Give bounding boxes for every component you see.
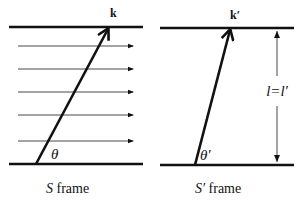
length-equality-label: l=l′ <box>266 83 288 99</box>
s-frame-text: frame <box>53 181 89 196</box>
s-field-lines <box>18 46 133 141</box>
k-prime-vector-label: k′ <box>230 8 240 22</box>
theta-prime-angle-label: θ′ <box>200 147 211 163</box>
relativity-diagram: k θ S frame k′ θ′ l=l′ S′ frame <box>0 0 305 201</box>
k-vector-arrow-icon <box>36 29 108 164</box>
theta-angle-label: θ <box>51 146 59 162</box>
k-vector-label: k <box>110 6 117 20</box>
s-prime-frame-caption: S′ frame <box>195 181 241 196</box>
s-frame-caption: S frame <box>46 181 89 196</box>
s-frame-panel: k θ S frame <box>9 6 143 196</box>
k-prime-vector-arrow-icon <box>195 30 230 165</box>
s-prime-frame-panel: k′ θ′ l=l′ S′ frame <box>160 8 294 196</box>
s-frame-symbol: S <box>46 181 53 196</box>
s-prime-frame-text: frame <box>205 181 241 196</box>
